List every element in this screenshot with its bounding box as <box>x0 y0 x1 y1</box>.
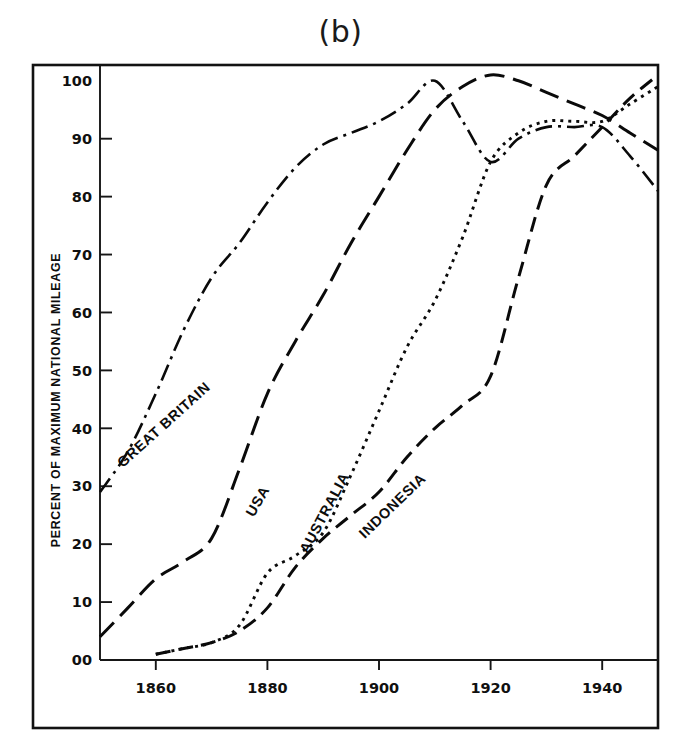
y-tick-label: 10 <box>72 594 92 610</box>
y-tick-label: 40 <box>72 421 92 437</box>
y-tick-label: 100 <box>62 73 92 89</box>
y-tick-label: 80 <box>72 189 92 205</box>
y-tick-label: 50 <box>72 363 92 379</box>
series-label-group: GREAT BRITAINUSAAUSTRALIAINDONESIA <box>114 379 429 556</box>
series-line-usa <box>100 75 658 637</box>
x-tick-label: 1940 <box>582 680 622 696</box>
x-tick-label: 1880 <box>247 680 287 696</box>
series-label-usa: USA <box>242 483 272 519</box>
y-tick-label: 30 <box>72 478 92 494</box>
x-tick-label: 1860 <box>136 680 176 696</box>
y-tick-label: 90 <box>72 131 92 147</box>
y-tick-label: 00 <box>72 652 92 668</box>
figure-title: (b) <box>0 14 681 49</box>
series-line-australia <box>156 87 658 655</box>
line-chart: 00102030405060708090100 1860188019001920… <box>0 0 681 755</box>
x-axis-ticks: 18601880190019201940 <box>136 660 623 696</box>
x-tick-label: 1900 <box>359 680 399 696</box>
figure-panel: (b) 00102030405060708090100 186018801900… <box>0 0 681 755</box>
series-label-indonesia: INDONESIA <box>356 470 429 541</box>
y-axis-title: PERCENT OF MAXIMUM NATIONAL MILEAGE <box>49 253 63 548</box>
y-tick-label: 20 <box>72 536 92 552</box>
y-tick-label: 70 <box>72 247 92 263</box>
series-line-great-britain <box>100 80 658 492</box>
axes <box>100 65 658 660</box>
y-tick-label: 60 <box>72 305 92 321</box>
series-label-australia: AUSTRALIA <box>296 470 352 556</box>
series-label-great-britain: GREAT BRITAIN <box>114 379 213 471</box>
data-series-group <box>100 75 658 654</box>
y-axis-ticks: 00102030405060708090100 <box>62 73 112 668</box>
series-line-indonesia <box>156 75 658 654</box>
x-tick-label: 1920 <box>470 680 510 696</box>
